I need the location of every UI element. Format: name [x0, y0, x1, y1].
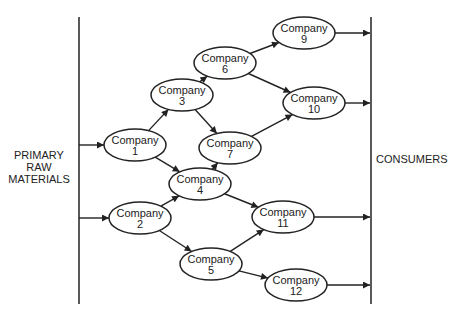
node-number: 10 [308, 103, 320, 115]
node-number: 11 [277, 217, 288, 229]
edge-c5-to-c12 [239, 271, 268, 278]
node-number: 2 [137, 218, 143, 230]
edge-c3-to-c7 [195, 109, 217, 133]
node-number: 6 [222, 63, 228, 75]
nodes-group: Company1Company2Company3Company4Company5… [104, 17, 345, 301]
node-company-9: Company9 [273, 17, 335, 49]
node-company-7: Company7 [199, 132, 261, 164]
node-company-4: Company4 [169, 168, 231, 200]
node-company-2: Company2 [109, 202, 171, 234]
consumers-label: CONSUMERS [376, 153, 456, 165]
edge-c1-to-c3 [149, 109, 169, 130]
node-number: 4 [197, 184, 203, 196]
raw-label-line-2: RAW [2, 161, 76, 173]
node-company-11: Company11 [252, 201, 314, 233]
raw-label-line-3: MATERIALS [2, 173, 76, 185]
node-company-10: Company10 [283, 87, 345, 119]
node-number: 9 [301, 33, 307, 45]
node-company-12: Company12 [265, 269, 327, 301]
node-number: 7 [227, 148, 233, 160]
edge-c5-to-c11 [230, 230, 264, 252]
node-number: 1 [132, 145, 138, 157]
node-number: 12 [290, 285, 302, 297]
node-company-6: Company6 [194, 47, 256, 79]
raw-label-line-1: PRIMARY [2, 149, 76, 161]
edge-c3-to-c6 [200, 76, 208, 82]
node-number: 3 [179, 95, 185, 107]
node-company-3: Company3 [151, 79, 213, 111]
node-company-1: Company1 [104, 129, 166, 161]
edge-c4-to-c11 [225, 194, 259, 207]
edge-c2-to-c4 [161, 196, 179, 206]
edge-c1-to-c4 [155, 157, 180, 172]
primary-raw-materials-label: PRIMARY RAW MATERIALS [2, 149, 76, 185]
edge-c7-to-c10 [252, 115, 293, 137]
edge-c2-to-c5 [159, 231, 191, 252]
edge-c4-to-c7 [212, 163, 218, 170]
edge-c6-to-c10 [248, 74, 290, 93]
edge-c6-to-c9 [250, 42, 279, 53]
node-company-5: Company5 [180, 248, 242, 280]
node-number: 5 [208, 264, 214, 276]
